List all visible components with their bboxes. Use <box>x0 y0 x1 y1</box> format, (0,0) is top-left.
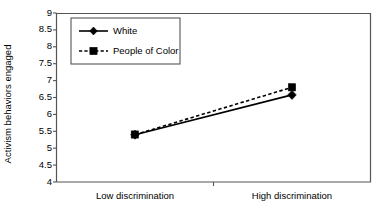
series-line-people-of-color <box>135 87 292 134</box>
chart-container: Activism behaviors engaged 9 8.5 8 7.5 7… <box>0 0 387 215</box>
y-tick-label-4-5: 4.5 <box>39 159 52 170</box>
y-tick-label-6-5: 6.5 <box>39 91 52 102</box>
y-tick-label-4: 4 <box>47 176 52 187</box>
marker-people-of-color-high <box>288 84 295 91</box>
y-tick-label-8: 8 <box>47 40 52 51</box>
legend-label-white: White <box>113 25 137 36</box>
y-tick-label-8-5: 8.5 <box>39 23 52 34</box>
y-tick-label-7-5: 7.5 <box>39 57 52 68</box>
legend-label-people-of-color: People of Color <box>113 45 178 56</box>
marker-white-high <box>288 90 297 99</box>
y-tick-label-7: 7 <box>47 74 52 85</box>
y-tick-label-5-5: 5.5 <box>39 125 52 136</box>
y-axis-title: Activism behaviors engaged <box>2 45 13 164</box>
y-tick-label-5: 5 <box>47 142 52 153</box>
x-tick-label-low: Low discrimination <box>96 190 174 201</box>
y-tick-label-6: 6 <box>47 108 52 119</box>
x-tick-label-high: High discrimination <box>252 190 332 201</box>
legend-marker-square-icon <box>90 47 97 54</box>
y-tick-label-9: 9 <box>47 7 52 18</box>
legend: White People of Color <box>71 18 180 64</box>
series-line-white <box>135 95 292 135</box>
line-chart: Activism behaviors engaged 9 8.5 8 7.5 7… <box>0 0 387 215</box>
